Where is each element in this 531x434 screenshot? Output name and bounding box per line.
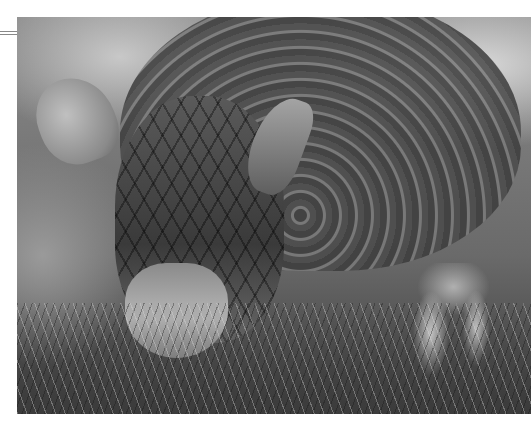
grass-foreground <box>17 303 531 414</box>
armadillo-left-ear <box>25 66 127 174</box>
decorative-rule <box>0 31 17 35</box>
armadillo-photo <box>17 17 531 414</box>
